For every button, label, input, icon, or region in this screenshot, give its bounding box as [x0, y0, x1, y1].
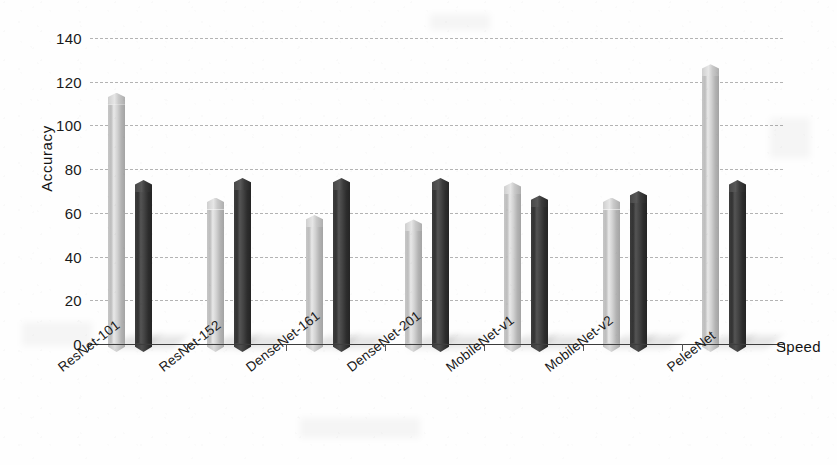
y-tick-120: 120	[36, 74, 82, 91]
y-tick-40: 40	[36, 249, 82, 266]
bar-accuracy-peleenet	[729, 180, 746, 344]
bar-chart: Accuracy 140 120 100 80 60 40 20 0	[0, 0, 837, 465]
bar-speed-resnet-101	[108, 93, 125, 344]
bar-accuracy-mobilenet-v2	[630, 191, 647, 344]
bar-accuracy-densenet-161	[333, 178, 350, 344]
bar-accuracy-resnet-101	[135, 180, 152, 344]
y-axis-tick-labels: 140 120 100 80 60 40 20 0	[30, 38, 82, 344]
y-tick-80: 80	[36, 161, 82, 178]
gridline-100	[90, 125, 783, 126]
x-axis-title: Speed	[776, 338, 821, 355]
y-tick-100: 100	[36, 117, 82, 134]
y-tick-20: 20	[36, 292, 82, 309]
gridline-120	[90, 82, 783, 83]
gridline-140	[90, 38, 783, 39]
gridline-80	[90, 169, 783, 170]
plot-area	[90, 38, 783, 344]
bar-accuracy-mobilenet-v1	[531, 195, 548, 344]
y-tick-60: 60	[36, 205, 82, 222]
bar-speed-peleenet	[702, 64, 719, 344]
bar-accuracy-resnet-152	[234, 178, 251, 344]
bar-accuracy-densenet-201	[432, 178, 449, 344]
y-tick-140: 140	[36, 30, 82, 47]
